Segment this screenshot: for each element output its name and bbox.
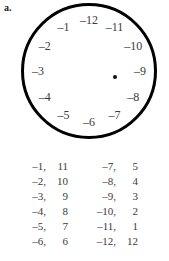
pair-second-value: 4 [116, 175, 138, 187]
pair-first-value: –11, [84, 220, 116, 232]
clock-number-8: –4 [39, 91, 51, 103]
pair-first-value: –5, [18, 220, 46, 232]
pair-second-value: 9 [46, 190, 68, 202]
pair-first-value: –12, [84, 235, 116, 247]
part-a-clock-figure: a. –12–11–10–9–8–7–6–5–4–3–2–1 [0, 0, 169, 148]
clock-number-9: –3 [32, 65, 44, 77]
pair-second-value: 12 [116, 235, 138, 247]
pair-row: –5,7 [18, 220, 68, 235]
pair-second-value: 11 [46, 160, 68, 172]
pair-first-value: –6, [18, 235, 46, 247]
pair-first-value: –3, [18, 190, 46, 202]
clock-number-4: –8 [127, 91, 139, 103]
pair-first-value: –9, [84, 190, 116, 202]
clock-number-1: –11 [106, 21, 124, 33]
clock-number-6: –6 [83, 116, 95, 128]
pair-row: –2,10 [18, 175, 68, 190]
pair-first-value: –1, [18, 160, 46, 172]
pair-second-value: 2 [116, 205, 138, 217]
pair-row: –12,12 [84, 235, 138, 250]
pair-second-value: 5 [116, 160, 138, 172]
clock-number-5: –7 [109, 109, 121, 121]
pair-second-value: 7 [46, 220, 68, 232]
part-a-label: a. [4, 2, 12, 13]
clock-number-11: –1 [58, 21, 70, 33]
pair-first-value: –4, [18, 205, 46, 217]
pairs-column-1: –1,11–2,10–3,9–4,8–5,7–6,6 [18, 160, 68, 250]
pair-second-value: 6 [46, 235, 68, 247]
pair-second-value: 10 [46, 175, 68, 187]
pair-row: –8,4 [84, 175, 138, 190]
pair-row: –10,2 [84, 205, 138, 220]
pair-row: –4,8 [18, 205, 68, 220]
clock-number-10: –2 [39, 40, 51, 52]
pair-row: –9,3 [84, 190, 138, 205]
part-b-pairs-figure: b. –1,11–2,10–3,9–4,8–5,7–6,6–7,5–8,4–9,… [0, 150, 169, 261]
pair-first-value: –7, [84, 160, 116, 172]
pair-row: –6,6 [18, 235, 68, 250]
pair-second-value: 3 [116, 190, 138, 202]
pair-second-value: 1 [116, 220, 138, 232]
pair-first-value: –10, [84, 205, 116, 217]
pair-row: –7,5 [84, 160, 138, 175]
pair-row: –11,1 [84, 220, 138, 235]
pair-first-value: –8, [84, 175, 116, 187]
clock-number-3: –9 [134, 65, 146, 77]
clock-number-12: –12 [80, 14, 98, 26]
pairs-column-2: –7,5–8,4–9,3–10,2–11,1–12,12 [84, 160, 138, 250]
clock-number-2: –10 [124, 40, 142, 52]
pair-first-value: –2, [18, 175, 46, 187]
clock-center-dot [113, 75, 117, 79]
pair-second-value: 8 [46, 205, 68, 217]
clock-number-7: –5 [58, 109, 70, 121]
pair-row: –3,9 [18, 190, 68, 205]
pair-row: –1,11 [18, 160, 68, 175]
pairs-table: –1,11–2,10–3,9–4,8–5,7–6,6–7,5–8,4–9,3–1… [18, 160, 138, 250]
